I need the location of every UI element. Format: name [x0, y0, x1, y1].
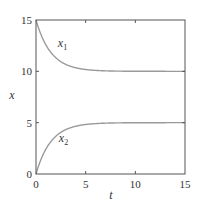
y-tick-label: 10 — [21, 65, 33, 77]
series-labels-layer: x1x2 — [57, 36, 68, 147]
y-tick-label: 0 — [27, 168, 33, 180]
x-tick-label: 10 — [130, 178, 142, 190]
y-axis-label: x — [8, 88, 15, 102]
series-label-x1: x1 — [57, 36, 67, 52]
x-axis-label: t — [109, 188, 113, 202]
y-tick-label: 5 — [27, 117, 33, 129]
tick-labels-layer: 051015051015 — [21, 14, 191, 190]
x-tick-label: 5 — [83, 178, 89, 190]
x-tick-label: 15 — [180, 178, 192, 190]
y-tick-label: 15 — [21, 14, 33, 26]
x-tick-label: 0 — [33, 178, 39, 190]
series-label-x2: x2 — [58, 131, 68, 147]
line-chart: 051015051015 t x x1x2 — [0, 0, 199, 208]
